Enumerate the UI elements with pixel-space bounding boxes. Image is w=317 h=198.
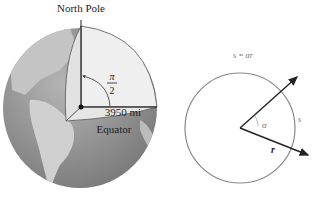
north-pole-label: North Pole [57, 2, 105, 14]
diagram-canvas: North Pole π 2 3950 mi Equator s = αr s … [0, 0, 317, 198]
globe: North Pole π 2 3950 mi Equator [3, 2, 157, 190]
alpha-arc [255, 116, 258, 126]
radius-r-label: r [271, 144, 275, 155]
equator-label: Equator [97, 123, 132, 135]
formula-label: s = αr [233, 51, 254, 60]
angle-denominator: 2 [110, 85, 115, 96]
alpha-label: α [262, 120, 267, 130]
earth-center-dot [79, 105, 84, 110]
arc-label: s [298, 115, 301, 124]
wedge-cut [81, 26, 157, 107]
radius-label: 3950 mi [105, 106, 141, 118]
arc-diagram: s = αr s α r [185, 51, 308, 183]
